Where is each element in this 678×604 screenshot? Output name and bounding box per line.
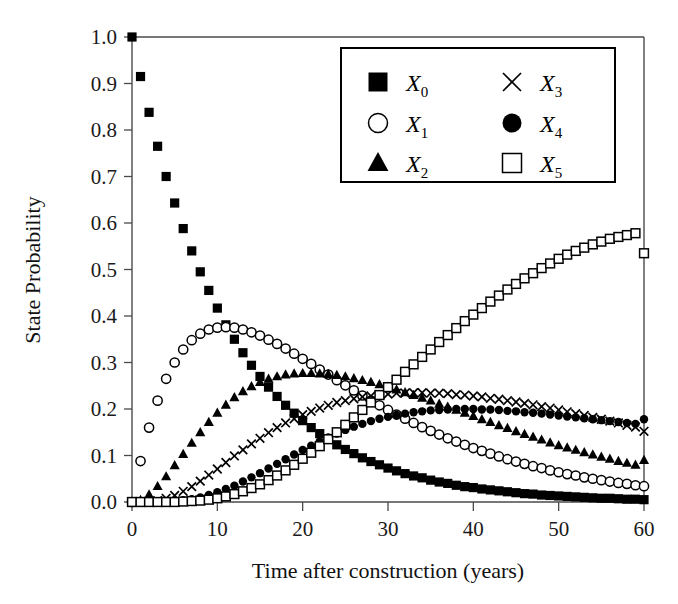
legend-marker-filled-square-icon <box>369 73 388 92</box>
data-point <box>520 459 529 468</box>
data-point <box>315 429 324 438</box>
data-point <box>452 481 461 490</box>
y-tick-label: 0.4 <box>91 304 118 328</box>
data-point <box>537 264 546 273</box>
data-point <box>495 406 503 414</box>
data-point <box>170 198 179 207</box>
data-point <box>307 423 316 432</box>
data-point <box>298 446 306 454</box>
data-point <box>631 229 640 238</box>
data-point <box>247 473 255 481</box>
data-point <box>588 493 597 502</box>
data-point <box>580 243 589 252</box>
data-point <box>144 423 153 432</box>
data-point <box>588 240 597 249</box>
data-point <box>503 487 512 496</box>
data-point <box>273 460 281 468</box>
data-point <box>597 416 605 424</box>
data-point <box>162 374 171 383</box>
data-point <box>426 345 435 354</box>
data-point <box>597 476 606 485</box>
data-point <box>469 405 477 413</box>
data-point <box>290 349 299 358</box>
data-point <box>384 383 393 392</box>
data-point <box>162 498 171 507</box>
data-point <box>631 420 639 428</box>
y-axis-title: State Probability <box>20 196 45 343</box>
chart-figure: 0.00.10.20.30.40.50.60.70.80.91.0 010203… <box>0 0 678 604</box>
data-point <box>477 484 486 493</box>
data-point <box>349 449 358 458</box>
data-point <box>375 415 383 423</box>
y-tick-label: 0.7 <box>91 165 117 189</box>
data-point <box>273 471 282 480</box>
y-tick-label: 0.1 <box>91 444 117 468</box>
data-point <box>614 478 623 487</box>
data-point <box>435 477 444 486</box>
data-point <box>230 482 238 490</box>
data-point <box>298 454 307 463</box>
data-point <box>162 172 171 181</box>
data-point <box>537 490 546 499</box>
data-point <box>196 496 205 505</box>
data-point <box>580 493 589 502</box>
data-point <box>367 398 376 407</box>
data-point <box>563 250 572 259</box>
data-point <box>375 401 384 410</box>
data-point <box>401 409 409 417</box>
data-point <box>213 494 222 503</box>
data-point <box>486 297 495 306</box>
data-point <box>375 391 384 400</box>
y-tick-label: 0.0 <box>91 490 117 514</box>
data-point <box>512 407 520 415</box>
data-point <box>503 407 511 415</box>
data-point <box>623 231 632 240</box>
data-point <box>589 415 597 423</box>
data-point <box>392 466 401 475</box>
data-point <box>332 428 341 437</box>
data-point <box>503 285 512 294</box>
data-point <box>349 386 358 395</box>
data-point <box>264 476 273 485</box>
data-point <box>418 407 426 415</box>
data-point <box>597 237 606 246</box>
data-point <box>341 420 350 429</box>
data-point <box>580 414 588 422</box>
data-point <box>384 413 392 421</box>
data-point <box>443 479 452 488</box>
data-point <box>529 269 538 278</box>
data-point <box>307 448 316 457</box>
data-point <box>426 406 434 414</box>
data-point <box>597 494 606 503</box>
legend-label-subscript: 3 <box>555 84 563 100</box>
data-point <box>520 489 529 498</box>
data-point <box>418 473 427 482</box>
data-point <box>170 498 179 507</box>
data-point <box>546 491 555 500</box>
y-tick-label: 0.6 <box>91 211 117 235</box>
data-point <box>221 492 230 501</box>
data-point <box>605 494 614 503</box>
data-point <box>494 486 503 495</box>
data-point <box>495 291 504 300</box>
data-point <box>554 468 563 477</box>
y-tick-label: 0.8 <box>91 118 117 142</box>
data-point <box>461 405 469 413</box>
data-point <box>452 405 460 413</box>
data-point <box>247 361 256 370</box>
data-point <box>511 488 520 497</box>
data-point <box>350 422 358 430</box>
data-point <box>572 413 580 421</box>
data-point <box>153 396 162 405</box>
data-point <box>179 224 188 233</box>
data-point <box>187 497 196 506</box>
data-point <box>264 335 273 344</box>
data-point <box>529 409 537 417</box>
data-point <box>315 442 324 451</box>
data-point <box>426 476 435 485</box>
data-point <box>204 495 213 504</box>
data-point <box>247 484 256 493</box>
data-point <box>614 233 623 242</box>
data-point <box>204 325 213 334</box>
data-point <box>588 474 597 483</box>
